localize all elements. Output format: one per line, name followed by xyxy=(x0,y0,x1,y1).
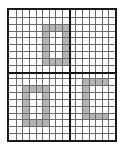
screenshot-canvas xyxy=(0,0,124,151)
major-gridline-vertical xyxy=(69,10,71,140)
major-gridline-horizontal xyxy=(9,72,115,74)
major-gridlines-layer xyxy=(9,10,115,140)
grid-worksheet-frame xyxy=(7,8,117,142)
